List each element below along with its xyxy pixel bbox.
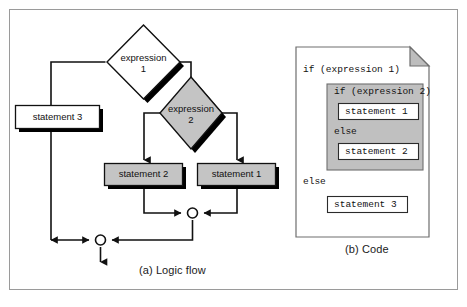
code-line-statement-1: statement 1 bbox=[345, 106, 408, 117]
code-line-statement-3: statement 3 bbox=[334, 199, 397, 210]
figure-root: expression 1 expression 2 statement 3 st… bbox=[0, 0, 467, 307]
code-line-if-1: if (expression 1) bbox=[303, 64, 400, 75]
caption-code: (b) Code bbox=[345, 243, 389, 255]
page-fold-icon bbox=[410, 47, 429, 66]
code-line-statement-2: statement 2 bbox=[345, 146, 408, 157]
code-line-else-outer: else bbox=[303, 176, 326, 187]
code-line-else-inner: else bbox=[334, 126, 357, 137]
code-line-if-2: if (expression 2) bbox=[334, 86, 431, 97]
